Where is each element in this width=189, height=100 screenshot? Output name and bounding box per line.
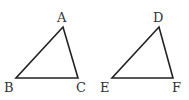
vertex-label-a: A (56, 10, 67, 25)
triangles-diagram: A B C D E F (0, 0, 189, 100)
vertex-label-e: E (100, 80, 110, 95)
vertex-label-f: F (172, 80, 181, 95)
vertex-label-d: D (153, 10, 163, 25)
triangle-abc (16, 27, 78, 78)
triangle-def (112, 27, 173, 78)
vertex-label-b: B (4, 80, 14, 95)
vertex-label-c: C (76, 80, 86, 95)
